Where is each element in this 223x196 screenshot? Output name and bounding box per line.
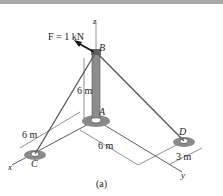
ay-length-label: 6 m (98, 140, 114, 151)
point-b-label: B (99, 42, 105, 53)
figure-caption: (a) (96, 178, 107, 190)
y-axis-label: y (180, 170, 185, 180)
point-a-label: A (98, 106, 106, 117)
x-axis-label: x (7, 162, 12, 172)
point-d-label: D (178, 126, 187, 137)
z-axis-label: z (92, 16, 97, 26)
tripod-diagram: z F = 1 kN B 6 m A 6 m C x 6 m D 3 m y (… (0, 0, 223, 196)
force-label: F = 1 kN (48, 31, 84, 42)
ac-length-label: 6 m (22, 129, 38, 140)
point-c-label: C (31, 158, 38, 169)
pole-height-label: 6 m (77, 85, 93, 96)
d-offset-label: 3 m (176, 151, 192, 162)
x-axis (12, 120, 96, 165)
cable-bc (35, 52, 96, 154)
